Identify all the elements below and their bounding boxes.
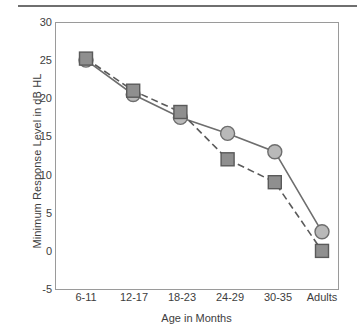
data-point-square [174, 106, 187, 119]
data-point-square [221, 153, 234, 166]
series-line-square [86, 59, 322, 251]
plot-area [0, 0, 357, 334]
data-point-circle [268, 145, 282, 159]
data-point-circle [315, 225, 329, 239]
data-point-square [268, 176, 281, 189]
data-point-square [80, 52, 93, 65]
series-line-circle [86, 60, 322, 232]
plot-frame-border [56, 23, 339, 290]
data-point-square [316, 244, 329, 257]
chart-container: Minimum Response Level in dB HL Age in M… [0, 0, 357, 334]
data-point-square [127, 84, 140, 97]
series-layer [79, 52, 329, 257]
data-point-circle [221, 126, 235, 140]
